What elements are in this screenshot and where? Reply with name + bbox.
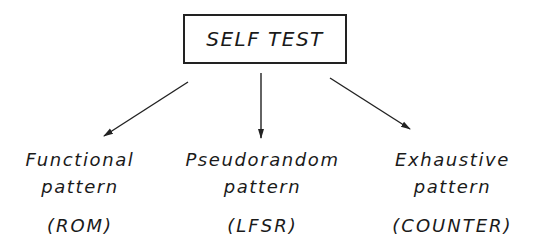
pseudorandom-line2: pattern bbox=[180, 173, 345, 200]
exhaustive-line2: pattern bbox=[385, 173, 520, 200]
node-functional: Functional pattern (ROM) bbox=[15, 146, 145, 239]
functional-line2: pattern bbox=[15, 173, 145, 200]
pseudorandom-line3: (LFSR) bbox=[180, 212, 345, 239]
exhaustive-line1: Exhaustive bbox=[385, 146, 520, 173]
functional-line3: (ROM) bbox=[15, 212, 145, 239]
pseudorandom-line1: Pseudorandom bbox=[180, 146, 345, 173]
functional-line1: Functional bbox=[15, 146, 145, 173]
arrow-to-exhaustive bbox=[330, 78, 410, 129]
node-pseudorandom: Pseudorandom pattern (LFSR) bbox=[180, 146, 345, 239]
exhaustive-line3: (COUNTER) bbox=[385, 212, 520, 239]
arrow-to-functional bbox=[104, 82, 188, 136]
node-exhaustive: Exhaustive pattern (COUNTER) bbox=[385, 146, 520, 239]
